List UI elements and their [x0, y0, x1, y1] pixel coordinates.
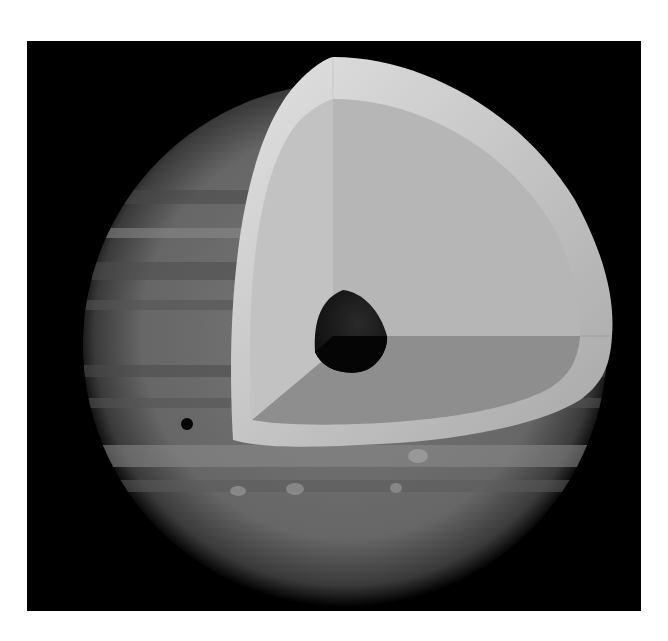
mantle-face-right — [333, 99, 580, 336]
moon-shadow — [181, 418, 193, 430]
cutaway — [231, 57, 612, 447]
jupiter-cutaway-diagram — [0, 0, 668, 641]
